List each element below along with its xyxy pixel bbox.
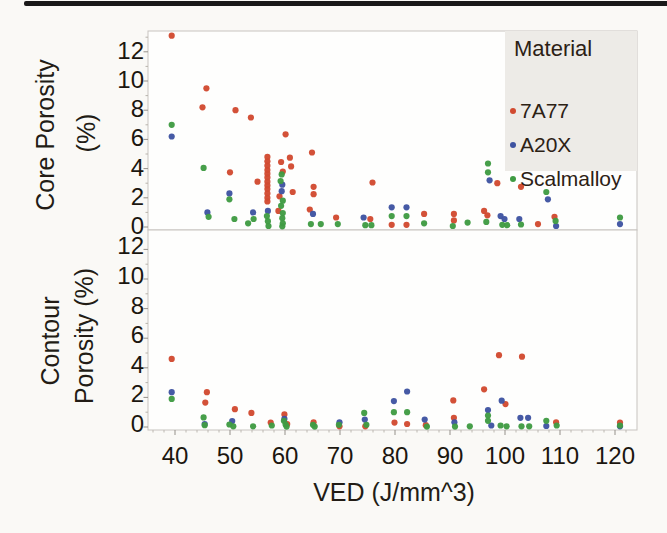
x-tick-label: 60	[272, 444, 299, 468]
data-point-7a77	[199, 104, 205, 110]
data-point-scalmalloy	[335, 221, 341, 227]
data-point-scalmalloy	[278, 203, 284, 209]
y-tick-label: 0	[68, 412, 144, 436]
data-point-scalmalloy	[518, 423, 524, 429]
data-point-a20x	[404, 388, 410, 394]
legend-marker-7a77-icon	[510, 108, 516, 114]
data-point-scalmalloy	[361, 410, 367, 416]
x-tick-label: 80	[382, 444, 409, 468]
x-tick-label: 110	[541, 444, 579, 468]
y-tick-label: 10	[68, 68, 144, 92]
data-point-a20x	[265, 208, 271, 214]
data-point-scalmalloy	[404, 409, 410, 415]
data-point-7a77	[311, 184, 317, 190]
data-point-7a77	[535, 221, 541, 227]
data-point-scalmalloy	[553, 218, 559, 224]
x-tick-label: 50	[217, 444, 244, 468]
data-point-7a77	[403, 222, 409, 228]
data-point-7a77	[496, 352, 502, 358]
data-point-7a77	[391, 420, 397, 426]
data-point-scalmalloy	[543, 418, 549, 424]
data-point-a20x	[617, 221, 623, 227]
data-point-7a77	[311, 191, 317, 197]
data-point-a20x	[310, 211, 316, 217]
data-point-scalmalloy	[279, 171, 285, 177]
data-point-a20x	[403, 204, 409, 210]
scanned-figure-page: Core Porosity (%) Contour Porosity (%) V…	[0, 0, 667, 533]
data-point-7a77	[288, 163, 294, 169]
data-point-scalmalloy	[169, 396, 175, 402]
data-point-a20x	[499, 398, 505, 404]
data-point-scalmalloy	[467, 423, 473, 429]
data-point-a20x	[545, 196, 551, 202]
data-point-scalmalloy	[504, 423, 510, 429]
data-point-7a77	[451, 217, 457, 223]
data-point-7a77	[287, 155, 293, 161]
y-tick-label: 4	[68, 156, 144, 180]
x-tick-label: 70	[327, 444, 354, 468]
y-tick-label: 8	[68, 294, 144, 318]
data-point-a20x	[485, 407, 491, 413]
data-point-scalmalloy	[308, 221, 314, 227]
data-point-scalmalloy	[485, 160, 491, 166]
data-point-scalmalloy	[312, 424, 318, 430]
data-point-scalmalloy	[452, 424, 458, 430]
y-tick-label: 6	[68, 126, 144, 150]
data-point-scalmalloy	[485, 412, 491, 418]
data-point-scalmalloy	[251, 216, 257, 222]
x-axis-title: VED (J/mm^3)	[313, 478, 475, 507]
data-point-7a77	[232, 406, 238, 412]
data-point-scalmalloy	[424, 424, 430, 430]
data-point-7a77	[484, 212, 490, 218]
legend-entry-a20x: A20X	[510, 133, 571, 157]
data-point-scalmalloy	[169, 122, 175, 128]
data-point-7a77	[421, 211, 427, 217]
data-point-7a77	[278, 159, 284, 165]
legend-label-scalmalloy: Scalmalloy	[520, 167, 622, 191]
data-point-7a77	[202, 400, 208, 406]
data-point-a20x	[389, 204, 395, 210]
x-tick-label: 100	[485, 444, 525, 468]
data-point-7a77	[169, 33, 175, 39]
data-point-scalmalloy	[391, 409, 397, 415]
data-point-7a77	[204, 389, 210, 395]
y-tick-label: 6	[68, 323, 144, 347]
x-tick-label: 40	[162, 444, 189, 468]
y-tick-label: 10	[68, 264, 144, 288]
legend-marker-scalmalloy-icon	[510, 176, 516, 182]
data-point-scalmalloy	[518, 221, 524, 227]
data-point-a20x	[361, 214, 367, 220]
y-tick-label: 12	[68, 234, 144, 258]
data-point-7a77	[369, 179, 375, 185]
legend-marker-a20x-icon	[510, 142, 516, 148]
legend-label-7a77: 7A77	[520, 99, 569, 123]
data-point-7a77	[203, 85, 209, 91]
y-tick-label: 12	[68, 39, 144, 63]
legend-box: Material 7A77 A20X Scalmalloy	[505, 31, 637, 171]
data-point-7a77	[404, 421, 410, 427]
data-point-scalmalloy	[201, 165, 207, 171]
data-point-a20x	[517, 415, 523, 421]
data-point-scalmalloy	[206, 214, 212, 220]
data-point-7a77	[248, 410, 254, 416]
y-tick-label: 8	[68, 97, 144, 121]
data-point-7a77	[248, 114, 254, 120]
legend-entry-scalmalloy: Scalmalloy	[510, 167, 622, 191]
data-point-7a77	[451, 211, 457, 217]
data-point-scalmalloy	[617, 422, 623, 428]
bottom-panel-y-axis-title: Contour	[36, 297, 65, 386]
data-point-7a77	[494, 180, 500, 186]
data-point-7a77	[389, 222, 395, 228]
x-tick-label: 90	[437, 444, 464, 468]
data-point-a20x	[516, 216, 522, 222]
data-point-7a77	[309, 149, 315, 155]
data-point-7a77	[333, 214, 339, 220]
data-point-scalmalloy	[245, 220, 251, 226]
data-point-scalmalloy	[485, 418, 491, 424]
data-point-scalmalloy	[421, 220, 427, 226]
y-tick-label: 4	[68, 353, 144, 377]
data-point-scalmalloy	[279, 223, 285, 229]
y-tick-label: 2	[68, 382, 144, 406]
data-point-scalmalloy	[318, 221, 324, 227]
legend-title: Material	[514, 36, 592, 62]
